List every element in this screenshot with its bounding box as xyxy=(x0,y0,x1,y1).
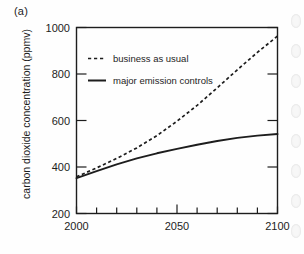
x-tick-label-2050: 2050 xyxy=(165,220,189,232)
chart-legend: business as usual major emission control… xyxy=(88,53,213,86)
y-axis-ticks-right xyxy=(268,28,278,214)
legend-label-major-emission-controls: major emission controls xyxy=(113,75,213,86)
figure-panel-a: (a) carbon dioxide concentration (ppmv) … xyxy=(0,0,304,254)
x-tick-label-2000: 2000 xyxy=(64,220,88,232)
y-tick-label-200: 200 xyxy=(52,208,70,220)
y-tick-label-1000: 1000 xyxy=(46,22,70,34)
x-tick-label-2100: 2100 xyxy=(265,220,289,232)
y-tick-label-800: 800 xyxy=(52,68,70,80)
legend-label-business-as-usual: business as usual xyxy=(113,53,189,64)
y-tick-label-600: 600 xyxy=(52,115,70,127)
x-axis-ticks xyxy=(77,205,278,214)
y-tick-label-400: 400 xyxy=(52,161,70,173)
y-axis-ticks xyxy=(77,28,87,214)
series-major-emission-controls xyxy=(77,134,278,178)
chart-svg: 1000 800 600 400 200 2000 2050 2100 xyxy=(0,0,304,254)
